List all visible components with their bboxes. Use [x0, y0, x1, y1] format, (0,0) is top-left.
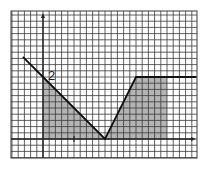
intercept-label: 2: [48, 68, 55, 83]
y-axis-arrow-icon: [41, 13, 45, 18]
grid-lines: [11, 11, 197, 158]
graph: 2: [0, 0, 203, 169]
x-axis-arrow-icon: [191, 137, 196, 141]
